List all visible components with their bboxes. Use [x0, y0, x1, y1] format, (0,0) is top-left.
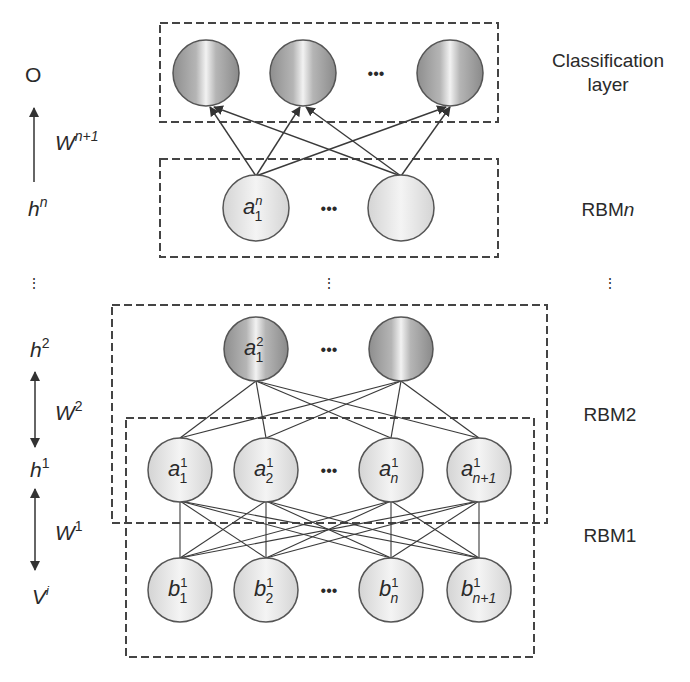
rbm-n-ellipsis: •••: [321, 200, 338, 217]
output-node-3: [417, 40, 483, 106]
w2-connections: [180, 381, 479, 438]
classification-ellipsis: •••: [368, 65, 385, 82]
hn-label: hn: [28, 194, 48, 220]
w1-connections: [180, 501, 479, 558]
classification-layer-label-line2: layer: [587, 74, 629, 95]
h2-ellipsis: •••: [321, 341, 338, 358]
output-connections: [210, 107, 450, 176]
right-vertical-ellipsis: ⋮: [603, 275, 617, 291]
visible-ellipsis: •••: [321, 582, 338, 599]
output-label: O: [25, 63, 41, 86]
rbm-n-label: RBMn: [582, 199, 635, 220]
output-node-1: [173, 40, 239, 106]
hn-node-last: [368, 175, 434, 241]
h2-node-last: [369, 317, 433, 381]
classification-layer-label: Classification: [552, 50, 664, 71]
h1-ellipsis: •••: [321, 462, 338, 479]
visible-label: Vi: [32, 583, 50, 608]
middle-vertical-ellipsis: ⋮: [322, 275, 336, 291]
w1-label: W1: [55, 518, 83, 544]
rbm1-label: RBM1: [584, 525, 637, 546]
h1-label: h1: [30, 455, 50, 481]
w-top-label: Wn+1: [55, 128, 99, 154]
classification-nodes: [173, 40, 483, 106]
w2-label: W2: [55, 398, 83, 424]
h2-label: h2: [30, 335, 50, 361]
rbm2-label: RBM2: [584, 404, 637, 425]
dbn-diagram: ••• an1 ••• ⋮ a21 ••• a11 a12 a1n a1n+1 …: [0, 0, 690, 682]
left-vertical-ellipsis: ⋮: [27, 275, 41, 291]
output-node-2: [270, 40, 336, 106]
